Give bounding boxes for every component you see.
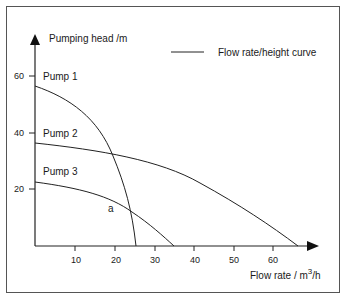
pump-1-label: Pump 1: [43, 71, 78, 82]
x-tick-40: 40: [190, 255, 200, 265]
x-tick-20: 20: [111, 255, 121, 265]
y-ticks: [29, 76, 35, 189]
x-axis-label: Flow rate / m3/h: [250, 267, 321, 281]
y-axis-label: Pumping head /m: [49, 33, 127, 44]
x-ticks: [75, 246, 273, 251]
pump-3-label: Pump 3: [43, 166, 78, 177]
pump-2-curve: [35, 143, 298, 246]
pump-2-label: Pump 2: [43, 128, 78, 139]
pump-curve-chart: 60 40 20 10 20 30 40 50 60 Pumping head …: [0, 0, 345, 298]
operating-point-a-label: a: [108, 203, 114, 214]
y-tick-60: 60: [14, 71, 24, 81]
x-tick-50: 50: [229, 255, 239, 265]
x-tick-30: 30: [150, 255, 160, 265]
x-tick-10: 10: [71, 255, 81, 265]
y-axis-arrow-icon: [30, 34, 40, 45]
legend-label: Flow rate/height curve: [218, 47, 317, 58]
x-tick-60: 60: [268, 255, 278, 265]
x-axis-arrow-icon: [307, 241, 319, 251]
pump-3-curve: [35, 182, 174, 246]
y-tick-20: 20: [14, 184, 24, 194]
y-tick-40: 40: [14, 128, 24, 138]
